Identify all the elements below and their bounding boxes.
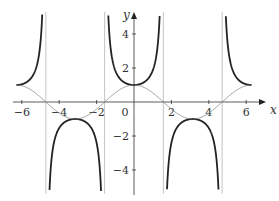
x-tick-label: 6 [243, 106, 250, 119]
x-tick-label: −2 [88, 106, 104, 119]
y-tick-label: 4 [122, 28, 129, 41]
x-axis-label: x [270, 103, 277, 117]
x-tick-label: 2 [168, 106, 175, 119]
axes: x y [13, 8, 277, 195]
x-tick-label: −4 [51, 106, 67, 119]
sec-cos-chart: x y −6−4−20246−4−224 [0, 0, 279, 201]
x-axis-arrow-icon [259, 99, 266, 105]
y-axis-label: y [122, 8, 130, 22]
y-tick-label: 2 [122, 62, 129, 75]
x-tick-label: 0 [122, 106, 129, 119]
tick-marks: −6−4−20246−4−224 [14, 28, 250, 177]
y-tick-label: −4 [113, 164, 129, 177]
x-tick-label: −6 [14, 106, 30, 119]
y-axis-arrow-icon [131, 12, 137, 19]
y-tick-label: −2 [113, 130, 129, 143]
x-tick-label: 4 [205, 106, 212, 119]
